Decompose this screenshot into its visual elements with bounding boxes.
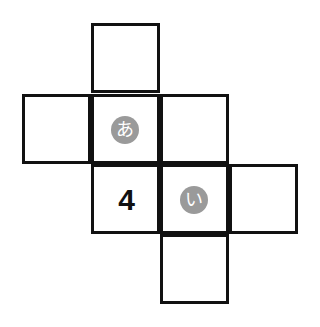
number-label-4: 4 [92, 183, 161, 217]
square-lower-right [229, 164, 298, 234]
square-center-right [160, 94, 229, 164]
circle-label-a: あ [111, 116, 139, 144]
square-top [91, 23, 160, 93]
square-left [22, 94, 91, 164]
circle-label-i: い [180, 186, 208, 214]
square-bottom [160, 234, 229, 304]
